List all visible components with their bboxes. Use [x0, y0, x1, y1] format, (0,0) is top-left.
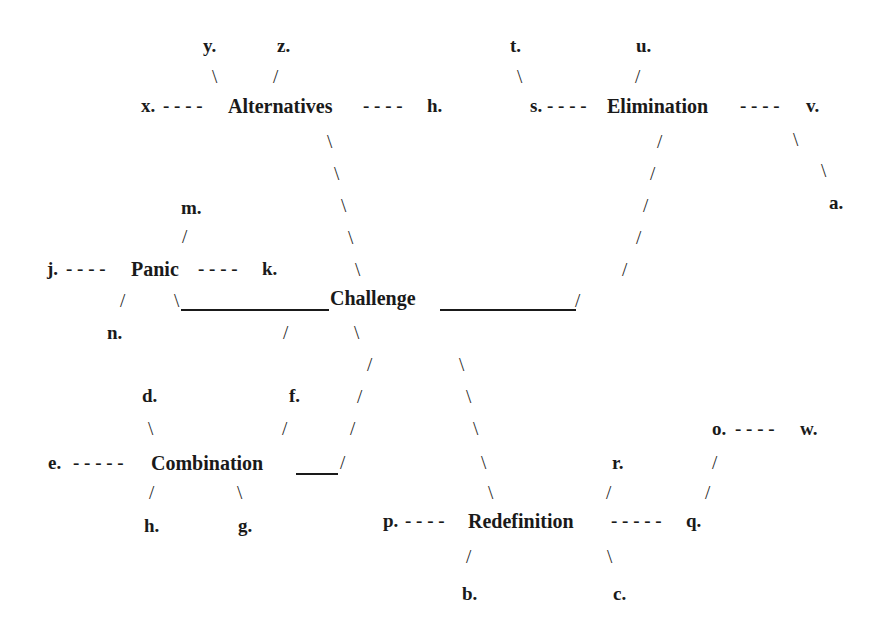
label-c: c.	[613, 583, 626, 605]
stroke-38: /	[466, 546, 471, 568]
stroke-21: \	[354, 322, 359, 344]
stroke-27: /	[282, 418, 287, 440]
stroke-29: \	[473, 418, 478, 440]
stroke-7: \	[348, 227, 353, 249]
dash-connector-elim-v: - - - -	[740, 95, 780, 117]
label-w: w.	[800, 418, 817, 440]
stroke-33: \	[488, 482, 493, 504]
label-j: j.	[47, 258, 58, 280]
stroke-31: \	[481, 452, 486, 474]
dash-connector-x-alt: - - - -	[163, 95, 203, 117]
label-s: s.	[530, 95, 542, 117]
stroke-9: /	[657, 131, 662, 153]
label-e: e.	[48, 452, 61, 474]
label-p: p.	[383, 510, 398, 532]
label-u: u.	[636, 35, 651, 57]
stroke-0: \	[212, 66, 217, 88]
stroke-6: \	[341, 195, 346, 217]
stroke-36: /	[149, 482, 154, 504]
stroke-28: /	[350, 418, 355, 440]
label-a: a.	[829, 192, 843, 214]
stroke-24: /	[357, 386, 362, 408]
stroke-16: /	[182, 226, 187, 248]
stroke-14: \	[793, 129, 798, 151]
stroke-13: /	[622, 259, 627, 281]
label-o: o.	[712, 418, 726, 440]
stroke-39: \	[607, 546, 612, 568]
stroke-32: /	[712, 452, 717, 474]
label-t: t.	[510, 35, 521, 57]
center-node-challenge: Challenge	[330, 287, 416, 309]
stroke-12: /	[636, 227, 641, 249]
label-h-top: h.	[427, 95, 442, 117]
dash-connector-j-panic: - - - -	[66, 258, 106, 280]
label-z: z.	[277, 35, 290, 57]
label-d: d.	[142, 385, 157, 407]
rule-challenge-elim-bar	[440, 309, 576, 311]
label-g: g.	[238, 515, 252, 537]
label-k: k.	[262, 258, 277, 280]
dash-connector-o-w: - - - -	[735, 418, 775, 440]
dash-connector-redef-q: - - - - -	[611, 510, 662, 532]
node-elimination: Elimination	[607, 95, 708, 117]
label-n: n.	[107, 322, 122, 344]
stroke-11: /	[643, 195, 648, 217]
label-b: b.	[462, 583, 477, 605]
stroke-25: \	[466, 386, 471, 408]
dash-connector-e-comb: - - - - -	[73, 452, 124, 474]
dash-connector-alt-h: - - - -	[363, 95, 403, 117]
label-f: f.	[289, 385, 300, 407]
stroke-2: \	[517, 66, 522, 88]
stroke-4: \	[327, 131, 332, 153]
label-y: y.	[203, 35, 216, 57]
stroke-26: \	[148, 418, 153, 440]
dash-connector-panic-k: - - - -	[198, 258, 238, 280]
label-r: r.	[612, 452, 623, 474]
stroke-34: /	[606, 482, 611, 504]
label-h-bottom: h.	[144, 515, 159, 537]
node-panic: Panic	[131, 258, 179, 280]
node-alternatives: Alternatives	[228, 95, 332, 117]
stroke-35: /	[705, 482, 710, 504]
node-combination: Combination	[151, 452, 263, 474]
stroke-30: /	[340, 452, 345, 474]
stroke-19: /	[575, 290, 580, 312]
rule-combination-bar	[296, 473, 338, 475]
stroke-20: /	[283, 322, 288, 344]
dash-connector-s-elim: - - - -	[547, 95, 587, 117]
rule-panic-challenge-bar	[181, 309, 329, 311]
stroke-22: /	[367, 354, 372, 376]
stroke-3: /	[635, 66, 640, 88]
stroke-8: \	[355, 259, 360, 281]
stroke-15: \	[821, 160, 826, 182]
stroke-1: /	[273, 66, 278, 88]
stroke-5: \	[334, 163, 339, 185]
label-q: q.	[686, 510, 701, 532]
stroke-23: \	[459, 354, 464, 376]
label-m: m.	[181, 197, 202, 219]
label-v: v.	[806, 95, 819, 117]
node-redefinition: Redefinition	[468, 510, 574, 532]
concept-diagram: \/\/\\\\\/////\\//\//\/\/\\//\/\/\///\/\…	[0, 0, 886, 628]
stroke-18: \	[174, 290, 179, 312]
stroke-10: /	[650, 163, 655, 185]
stroke-17: /	[120, 290, 125, 312]
dash-connector-p-redef: - - - -	[405, 510, 445, 532]
label-x: x.	[141, 95, 155, 117]
stroke-37: \	[237, 482, 242, 504]
